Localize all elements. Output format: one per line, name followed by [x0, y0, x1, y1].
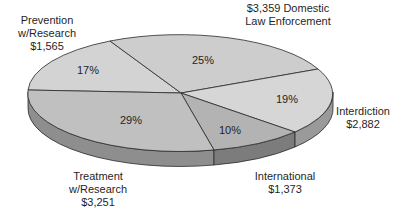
label-treatment-line3: $3,251 — [53, 196, 143, 209]
pct-international: 10% — [219, 124, 241, 136]
label-domestic-law-enforcement: $3,359 Domestic Law Enforcement — [228, 2, 348, 28]
label-prevention-line3: $1,565 — [2, 40, 92, 53]
label-prevention-line2: w/Research — [2, 27, 92, 40]
label-prevention: Prevention w/Research $1,565 — [2, 14, 92, 53]
label-international-line1: International — [245, 170, 325, 183]
label-international-line2: $1,373 — [245, 183, 325, 196]
label-treatment-line1: Treatment — [53, 170, 143, 183]
label-interdiction: Interdiction $2,882 — [333, 105, 393, 131]
label-interdiction-line1: Interdiction — [333, 105, 393, 118]
label-prevention-line1: Prevention — [2, 14, 92, 27]
pct-prevention: 17% — [77, 64, 99, 76]
label-treatment: Treatment w/Research $3,251 — [53, 170, 143, 209]
label-treatment-line2: w/Research — [53, 183, 143, 196]
label-interdiction-line2: $2,882 — [333, 118, 393, 131]
pct-interdiction: 19% — [276, 93, 298, 105]
label-international: International $1,373 — [245, 170, 325, 196]
pct-treatment: 29% — [120, 114, 142, 126]
label-domestic-line2: Law Enforcement — [228, 15, 348, 28]
pct-domestic: 25% — [192, 54, 214, 66]
label-domestic-line1: $3,359 Domestic — [228, 2, 348, 15]
